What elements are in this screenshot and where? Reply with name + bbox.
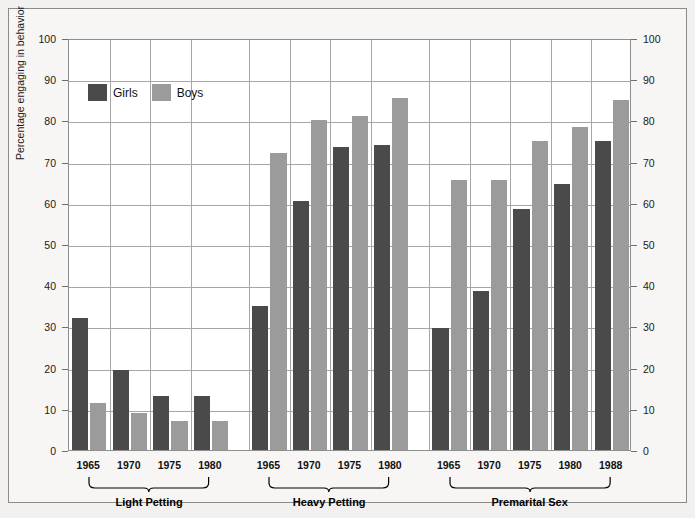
- y-tick-label-right: 80: [643, 116, 655, 127]
- bar-boys: [451, 180, 467, 450]
- y-tick-label-left: 10: [0, 405, 56, 416]
- y-tick-mark-right: [631, 39, 637, 40]
- bar-boys: [270, 153, 286, 450]
- bar-girls: [113, 370, 129, 450]
- gridline-vertical: [191, 40, 192, 450]
- y-tick-mark-left: [62, 451, 68, 452]
- y-tick-mark-right: [631, 327, 637, 328]
- y-tick-label-left: 100: [0, 34, 56, 45]
- gridline-vertical: [429, 40, 430, 450]
- y-tick-label-right: 10: [643, 405, 655, 416]
- y-tick-mark-right: [631, 286, 637, 287]
- bar-boys: [131, 413, 147, 450]
- gridline-vertical: [110, 40, 111, 450]
- y-tick-mark-right: [631, 80, 637, 81]
- gridline-vertical: [290, 40, 291, 450]
- y-tick-label-left: 80: [0, 116, 56, 127]
- group-label: Light Petting: [59, 496, 239, 508]
- bar-girls: [554, 184, 570, 450]
- bar-girls: [473, 291, 489, 450]
- y-tick-label-right: 50: [643, 240, 655, 251]
- y-tick-label-right: 100: [643, 34, 661, 45]
- bar-boys: [311, 120, 327, 450]
- bar-boys: [392, 98, 408, 450]
- y-tick-label-right: 60: [643, 199, 655, 210]
- y-tick-label-left: 70: [0, 158, 56, 169]
- legend-entry-girls: Girls: [88, 84, 138, 101]
- bar-boys: [352, 116, 368, 450]
- bar-boys: [90, 403, 106, 450]
- y-tick-label-right: 90: [643, 75, 655, 86]
- bar-boys: [171, 421, 187, 450]
- y-tick-label-left: 0: [0, 446, 56, 457]
- bar-girls: [595, 141, 611, 450]
- bar-girls: [293, 201, 309, 450]
- bar-girls: [374, 145, 390, 450]
- y-tick-mark-right: [631, 245, 637, 246]
- group-brace-icon: [268, 477, 390, 493]
- gridline-horizontal: [69, 122, 630, 123]
- chart-legend: Girls Boys: [88, 84, 203, 101]
- group-brace-icon: [449, 477, 611, 493]
- gridline-vertical: [470, 40, 471, 450]
- gridline-vertical: [330, 40, 331, 450]
- bar-girls: [513, 209, 529, 450]
- y-tick-label-left: 30: [0, 322, 56, 333]
- chart-figure: Percentage engaging in behavior 01020304…: [0, 0, 695, 518]
- x-tick-label: 1988: [585, 459, 637, 471]
- y-tick-mark-right: [631, 163, 637, 164]
- group-brace-icon: [88, 477, 210, 493]
- legend-swatch-girls-icon: [88, 84, 107, 101]
- x-tick-label: 1980: [184, 459, 236, 471]
- y-tick-mark-right: [631, 451, 637, 452]
- group-label: Premarital Sex: [440, 496, 620, 508]
- y-tick-label-left: 60: [0, 199, 56, 210]
- x-tick-label: 1980: [364, 459, 416, 471]
- gridline-vertical: [591, 40, 592, 450]
- y-tick-label-right: 70: [643, 158, 655, 169]
- y-tick-label-right: 30: [643, 322, 655, 333]
- gridline-horizontal: [69, 81, 630, 82]
- gridline-vertical: [150, 40, 151, 450]
- gridline-vertical: [371, 40, 372, 450]
- bar-boys: [212, 421, 228, 450]
- y-tick-label-left: 50: [0, 240, 56, 251]
- legend-label-boys: Boys: [177, 86, 204, 100]
- y-tick-label-right: 40: [643, 281, 655, 292]
- y-tick-label-left: 40: [0, 281, 56, 292]
- bar-girls: [153, 396, 169, 450]
- legend-swatch-boys-icon: [152, 84, 171, 101]
- y-tick-label-left: 90: [0, 75, 56, 86]
- bar-girls: [72, 318, 88, 450]
- bar-girls: [432, 328, 448, 450]
- bar-boys: [532, 141, 548, 450]
- gridline-vertical: [510, 40, 511, 450]
- bar-boys: [491, 180, 507, 450]
- y-tick-mark-right: [631, 410, 637, 411]
- y-tick-mark-right: [631, 204, 637, 205]
- y-tick-mark-right: [631, 121, 637, 122]
- y-tick-label-right: 0: [643, 446, 649, 457]
- y-tick-label-left: 20: [0, 364, 56, 375]
- group-label: Heavy Petting: [239, 496, 419, 508]
- bar-boys: [613, 100, 629, 450]
- bar-boys: [572, 127, 588, 450]
- legend-entry-boys: Boys: [152, 84, 204, 101]
- y-tick-label-right: 20: [643, 364, 655, 375]
- bar-girls: [194, 396, 210, 450]
- gridline-vertical: [249, 40, 250, 450]
- legend-label-girls: Girls: [113, 86, 138, 100]
- gridline-vertical: [551, 40, 552, 450]
- bar-girls: [333, 147, 349, 450]
- bar-girls: [252, 306, 268, 450]
- y-tick-mark-right: [631, 369, 637, 370]
